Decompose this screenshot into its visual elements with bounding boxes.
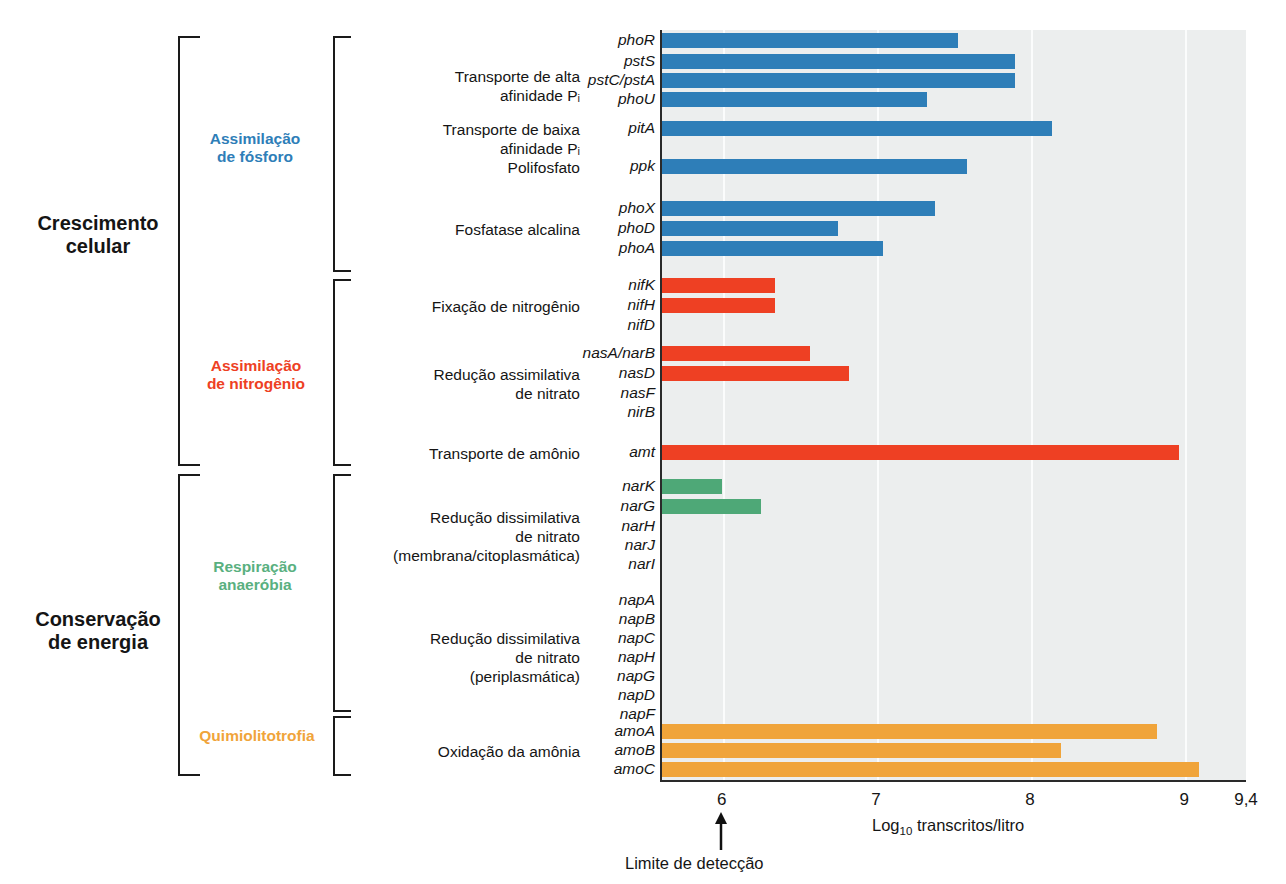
gene-label-nasF: nasF [420, 385, 655, 401]
gene-label-nasD: nasD [420, 365, 655, 381]
x-axis-title: Log10 transcritos/litro [872, 816, 1024, 837]
tick-label-9-4: 9,4 [1216, 790, 1276, 810]
tick-label-7: 7 [846, 790, 906, 810]
gene-label-phoA: phoA [420, 240, 655, 256]
top-group-label-crescimento: Crescimento celular [18, 212, 178, 258]
gene-label-phoX: phoX [420, 200, 655, 216]
plot-area [660, 30, 1246, 782]
figure-root: Crescimento celular Conservação de energ… [0, 0, 1286, 884]
gene-label-nifH: nifH [420, 297, 655, 313]
gene-label-ppk: ppk [420, 158, 655, 174]
bracket-assimilacao-nitrogenio [333, 279, 351, 466]
bar-nasD [662, 366, 849, 381]
gene-label-pstS: pstS [420, 53, 655, 69]
top-group-label-conservacao: Conservação de energia [18, 608, 178, 654]
tick-label-9: 9 [1154, 790, 1214, 810]
bar-pitA [662, 121, 1052, 136]
bar-nasA-narB [662, 346, 810, 361]
gene-label-amoB: amoB [420, 742, 655, 758]
gene-label-nasA-narB: nasA/narB [420, 345, 655, 361]
gridline-8 [1031, 30, 1033, 780]
gene-label-phoU: phoU [420, 91, 655, 107]
bar-nifH [662, 298, 775, 313]
bar-narK [662, 479, 722, 494]
gene-label-napA: napA [420, 592, 655, 608]
detection-limit-arrow [709, 812, 733, 852]
bar-phoU [662, 92, 927, 107]
gene-label-narH: narH [420, 518, 655, 534]
tick-label-8: 8 [1000, 790, 1060, 810]
gene-label-nifK: nifK [420, 277, 655, 293]
gene-label-nifD: nifD [420, 317, 655, 333]
bar-phoA [662, 241, 883, 256]
gene-label-napH: napH [420, 649, 655, 665]
bar-pstC-pstA [662, 73, 1015, 88]
bracket-crescimento-celular [178, 36, 200, 466]
gene-label-napD: napD [420, 687, 655, 703]
gene-label-amoA: amoA [420, 723, 655, 739]
process-label-quimiolitotrofia: Quimiolitotrofia [186, 727, 328, 745]
bar-phoX [662, 201, 935, 216]
bar-phoR [662, 33, 958, 48]
axis-title-rest: transcritos/litro [912, 816, 1024, 834]
gene-label-narJ: narJ [420, 537, 655, 553]
bar-ppk [662, 159, 967, 174]
process-label-fosforo: Assimilação de fósforo [190, 130, 320, 167]
detection-limit-label: Limite de detecção [625, 854, 764, 873]
axis-title-log: Log [872, 816, 900, 834]
bar-pstS [662, 54, 1015, 69]
process-label-respiracao: Respiração anaeróbia [190, 558, 320, 595]
gene-label-narI: narI [420, 556, 655, 572]
gene-label-amt: amt [420, 444, 655, 460]
bar-nifK [662, 278, 775, 293]
bar-narG [662, 499, 761, 514]
gene-label-phoR: phoR [420, 32, 655, 48]
bracket-assimilacao-fosforo [333, 36, 351, 272]
process-label-nitrogenio: Assimilação de nitrogênio [186, 357, 326, 394]
gene-label-amoC: amoC [420, 761, 655, 777]
gridline-6 [723, 30, 725, 780]
bar-amoB [662, 743, 1061, 758]
gene-label-pitA: pitA [420, 120, 655, 136]
gridline-7 [877, 30, 879, 780]
tick-label-6: 6 [692, 790, 752, 810]
gene-label-narK: narK [420, 478, 655, 494]
gridline-9 [1185, 30, 1187, 780]
gene-label-pstC-pstA: pstC/pstA [420, 72, 655, 88]
bar-amoC [662, 762, 1199, 777]
bracket-quimiolitotrofia [333, 716, 351, 776]
gene-label-napB: napB [420, 611, 655, 627]
gene-label-napF: napF [420, 706, 655, 722]
bar-amt [662, 445, 1179, 460]
gene-label-napG: napG [420, 668, 655, 684]
gene-label-phoD: phoD [420, 220, 655, 236]
axis-title-base: 10 [900, 825, 913, 837]
bar-amoA [662, 724, 1157, 739]
gene-label-nirB: nirB [420, 404, 655, 420]
gene-label-napC: napC [420, 630, 655, 646]
bar-phoD [662, 221, 838, 236]
gene-label-narG: narG [420, 498, 655, 514]
